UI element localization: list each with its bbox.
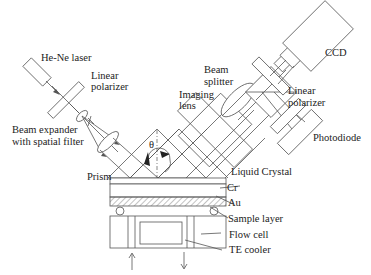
label-linear-polarizer-output-line2: polarizer	[288, 97, 325, 108]
label-photodiode: Photodiode	[313, 132, 361, 143]
label-beam-splitter-line2: splitter	[204, 76, 233, 87]
prism	[108, 129, 207, 178]
flow-cell	[110, 216, 226, 248]
label-cr: Cr	[227, 182, 238, 193]
label-flow-cell: Flow cell	[229, 229, 268, 240]
label-beam-expander-line1: Beam expander	[12, 124, 78, 135]
ccd-camera	[270, 1, 353, 84]
label-linear-polarizer-input-line1: Linear	[91, 70, 118, 81]
label-he-ne-laser: He-Ne laser	[41, 52, 91, 63]
spacer-left	[116, 207, 124, 215]
sample-layer	[110, 197, 226, 206]
label-prism: Prism	[87, 171, 112, 182]
cr-au-layers	[110, 178, 226, 197]
inlet-arrow-icon	[129, 253, 135, 270]
label-au: Au	[228, 197, 241, 208]
label-beam-splitter-line1: Beam	[204, 64, 229, 75]
label-beam-expander-line2: with spatial filter	[12, 136, 84, 147]
theta-label: θ	[149, 139, 154, 150]
label-imaging-lens-line1: Imaging	[179, 89, 214, 100]
beam-arrow-icon	[53, 89, 60, 95]
label-imaging-lens-line2: lens	[179, 100, 196, 111]
outlet-arrow-icon	[181, 252, 187, 269]
label-ccd: CCD	[325, 47, 347, 58]
label-linear-polarizer-input-line2: polarizer	[91, 81, 128, 92]
optical-setup-diagram: θ He-Ne laser Linear polarizer Beam expa…	[0, 0, 371, 275]
label-linear-polarizer-output-line1: Linear	[288, 85, 315, 96]
label-te-cooler: TE cooler	[229, 244, 271, 255]
label-sample-layer: Sample layer	[228, 213, 283, 224]
label-liquid-crystal: Liquid Crystal	[231, 166, 292, 177]
